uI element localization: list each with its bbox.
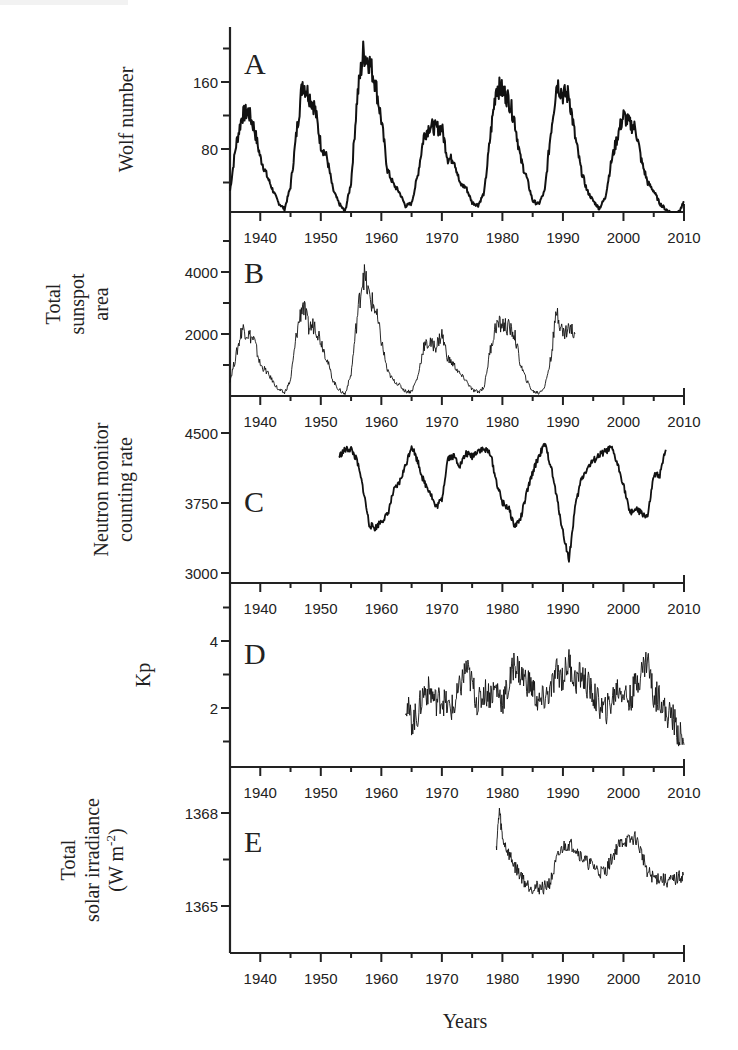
x-tick-label: 2000 xyxy=(607,970,640,987)
x-tick-label: 1940 xyxy=(244,229,277,246)
x-tick-label: 1980 xyxy=(486,970,519,987)
panel-letter: C xyxy=(244,485,264,518)
x-tick-label: 2000 xyxy=(607,784,640,801)
y-tick-label: 2 xyxy=(210,700,218,717)
data-series-line xyxy=(230,41,684,212)
x-tick-label: 1960 xyxy=(365,600,398,617)
x-tick-label: 1960 xyxy=(365,413,398,430)
y-axis-title: sunspot xyxy=(66,273,89,335)
x-tick-label: 1970 xyxy=(425,970,458,987)
x-tick-label: 2010 xyxy=(667,229,700,246)
x-tick-label: 1960 xyxy=(365,970,398,987)
x-tick-label: 1990 xyxy=(546,229,579,246)
x-tick-label: 1950 xyxy=(304,600,337,617)
y-tick-label: 3000 xyxy=(185,565,218,582)
panel-e: 1940195019601970198019902000201013651368… xyxy=(57,798,701,987)
x-tick-label: 1980 xyxy=(486,229,519,246)
x-tick-label: 1980 xyxy=(486,600,519,617)
x-tick-label: 2000 xyxy=(607,413,640,430)
x-tick-label: 2010 xyxy=(667,970,700,987)
x-tick-label: 1960 xyxy=(365,229,398,246)
y-tick-label: 4000 xyxy=(185,264,218,281)
x-tick-label: 2010 xyxy=(667,784,700,801)
y-axis-title: solar irradiance xyxy=(81,798,103,922)
x-tick-label: 1950 xyxy=(304,229,337,246)
y-tick-label: 160 xyxy=(193,74,218,91)
panel-a: 1940195019601970198019902000201080160AWo… xyxy=(115,41,701,246)
x-tick-label: 1960 xyxy=(365,784,398,801)
x-tick-label: 1980 xyxy=(486,784,519,801)
y-axis-title: Kp xyxy=(132,663,155,687)
data-series-line xyxy=(496,808,684,894)
x-tick-label: 1990 xyxy=(546,784,579,801)
y-tick-label: 4 xyxy=(210,633,218,650)
x-tick-label: 1990 xyxy=(546,413,579,430)
y-axis-title: Neutron monitor xyxy=(90,422,112,556)
panel-letter: E xyxy=(244,825,262,858)
data-series-line xyxy=(406,649,685,746)
x-tick-label: 2010 xyxy=(667,600,700,617)
panel-c: 1940195019601970198019902000201030003750… xyxy=(90,422,701,617)
panel-letter: B xyxy=(244,256,264,289)
y-axis-title: area xyxy=(90,287,112,320)
data-series-line xyxy=(230,265,575,395)
x-tick-label: 1940 xyxy=(244,970,277,987)
panel-b: 1940195019601970198019902000201020004000… xyxy=(42,241,701,430)
y-tick-label: 1365 xyxy=(185,898,218,915)
x-tick-label: 1990 xyxy=(546,600,579,617)
x-tick-label: 1970 xyxy=(425,784,458,801)
panel-d: 1940195019601970198019902000201024DKp xyxy=(132,608,701,802)
panel-letter: A xyxy=(244,47,266,80)
y-axis-title: Total xyxy=(42,283,64,324)
x-tick-label: 1940 xyxy=(244,600,277,617)
y-tick-label: 1368 xyxy=(185,805,218,822)
y-tick-label: 4500 xyxy=(185,425,218,442)
multi-panel-solar-activity-figure: 1940195019601970198019902000201080160AWo… xyxy=(0,0,738,1050)
x-tick-label: 1980 xyxy=(486,413,519,430)
y-tick-label: 2000 xyxy=(185,326,218,343)
y-axis-title: (W m-2) xyxy=(103,828,128,891)
x-axis-title: Years xyxy=(443,1010,488,1032)
panel-letter: D xyxy=(244,637,266,670)
x-tick-label: 1970 xyxy=(425,229,458,246)
data-series-line xyxy=(339,444,666,562)
x-tick-label: 2000 xyxy=(607,600,640,617)
x-tick-label: 1990 xyxy=(546,970,579,987)
x-tick-label: 1950 xyxy=(304,784,337,801)
x-tick-label: 1950 xyxy=(304,970,337,987)
y-axis-title: Wolf number xyxy=(115,66,137,172)
y-axis-title: Total xyxy=(57,839,79,880)
x-tick-label: 1940 xyxy=(244,413,277,430)
y-tick-label: 3750 xyxy=(185,495,218,512)
x-tick-label: 2010 xyxy=(667,413,700,430)
panels-layer: 1940195019601970198019902000201080160AWo… xyxy=(42,27,701,987)
x-tick-label: 1970 xyxy=(425,413,458,430)
y-tick-label: 80 xyxy=(201,141,218,158)
y-axis-title: counting rate xyxy=(114,437,137,542)
x-tick-label: 2000 xyxy=(607,229,640,246)
x-tick-label: 1940 xyxy=(244,784,277,801)
x-tick-label: 1950 xyxy=(304,413,337,430)
x-tick-label: 1970 xyxy=(425,600,458,617)
